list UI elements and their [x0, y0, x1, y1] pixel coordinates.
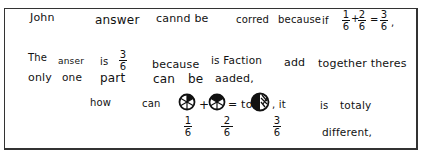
word-john: John [30, 11, 55, 24]
word-be: be [188, 72, 203, 86]
word-answer-2: anser [58, 56, 84, 66]
numerator: 3 [381, 10, 387, 19]
word-because-2: because [152, 58, 199, 71]
word-the: The [28, 52, 47, 63]
word-part: part [100, 71, 125, 85]
denominator: 6 [120, 62, 126, 71]
word-different: different, [322, 126, 372, 138]
pie-label-three-sixths: 36 [273, 116, 281, 137]
three-sixths-pie-icon [250, 92, 270, 112]
numerator: 3 [120, 50, 126, 59]
numerator: 1 [185, 116, 191, 125]
two-sixths-pie-icon [208, 93, 226, 111]
numerator: 2 [359, 10, 365, 19]
word-answer: answer [95, 13, 140, 27]
denominator: 6 [274, 128, 280, 137]
fraction-two-sixths: 26 [358, 10, 366, 31]
denominator: 6 [343, 22, 349, 31]
word-is-faction: is Faction [211, 54, 262, 66]
word-cannot-be: cannd be [156, 12, 209, 25]
word-can-2: can [142, 98, 161, 109]
denominator: 6 [224, 128, 230, 137]
fraction-answer: 36 [119, 50, 127, 71]
equals-sign: = [370, 14, 379, 25]
word-only: only [28, 71, 52, 84]
numerator: 1 [343, 10, 349, 19]
numerator: 2 [224, 116, 230, 125]
word-totaly: totaly [340, 99, 371, 111]
word-add: add [284, 56, 305, 69]
word-correct: corred [236, 14, 269, 25]
comma: , [391, 17, 394, 28]
one-sixth-pie-icon [178, 93, 196, 111]
denominator: 6 [359, 22, 365, 31]
fraction-one-sixth: 16 [342, 10, 350, 31]
word-together-theres: together theres [318, 57, 407, 70]
pie-label-one-sixth: 16 [184, 116, 192, 137]
denominator: 6 [185, 128, 191, 137]
word-because: because [278, 14, 321, 25]
word-is-2: is [320, 100, 328, 111]
word-if: if [322, 15, 329, 26]
word-one: one [62, 71, 82, 83]
word-can: can [153, 72, 175, 86]
word-how: how [90, 97, 111, 108]
fraction-three-sixths: 36 [380, 10, 388, 31]
numerator: 3 [274, 116, 280, 125]
equals-to: = to [228, 98, 253, 111]
word-aaded: aaded, [215, 72, 254, 85]
word-it: , it [272, 99, 286, 110]
word-is: is [100, 56, 108, 67]
denominator: 6 [381, 22, 387, 31]
pie-label-two-sixths: 26 [221, 116, 233, 137]
